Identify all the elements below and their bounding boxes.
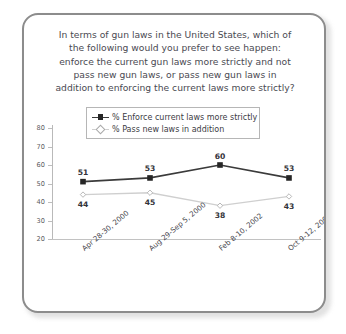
plot-area: 20304050607080 5153605344453843 Apr 28-3… <box>24 15 326 313</box>
data-label-0-0: 51 <box>78 168 89 177</box>
data-label-0-3: 53 <box>284 164 295 173</box>
data-label-1-0: 44 <box>78 200 89 209</box>
data-label-0-1: 53 <box>145 164 156 173</box>
data-label-0-2: 60 <box>215 151 226 160</box>
marker-square-0-2 <box>217 162 223 168</box>
data-label-1-2: 38 <box>215 211 226 220</box>
series-line-1 <box>83 193 289 206</box>
marker-square-0-3 <box>286 175 292 181</box>
marker-square-0-0 <box>80 179 86 185</box>
chart-screenshot: In terms of gun laws in the United State… <box>0 0 346 334</box>
marker-diamond-1-3 <box>286 194 291 199</box>
marker-diamond-1-2 <box>217 203 222 208</box>
marker-diamond-1-1 <box>147 190 152 195</box>
series-line-0 <box>83 165 289 182</box>
series-lines <box>24 15 326 313</box>
chart-card: In terms of gun laws in the United State… <box>22 13 326 313</box>
marker-diamond-1-0 <box>80 192 85 197</box>
data-label-1-3: 43 <box>284 201 295 210</box>
data-label-1-1: 45 <box>145 198 156 207</box>
marker-square-0-1 <box>147 175 153 181</box>
